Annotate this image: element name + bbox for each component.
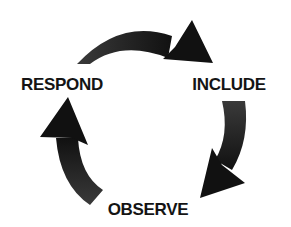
label-respond: RESPOND [21,76,103,93]
arrow-include-to-observe [200,101,246,198]
label-include: INCLUDE [192,76,265,93]
arrow-observe-to-respond [40,97,103,205]
arrow-respond-to-include [77,20,213,64]
arrowhead-icon [40,97,88,145]
cycle-arrows [0,0,291,227]
arrow-body [56,138,103,205]
cycle-diagram: RESPOND INCLUDE OBSERVE [0,0,291,227]
arrow-body [77,31,172,64]
label-observe: OBSERVE [108,201,189,218]
arrow-body [215,101,246,170]
